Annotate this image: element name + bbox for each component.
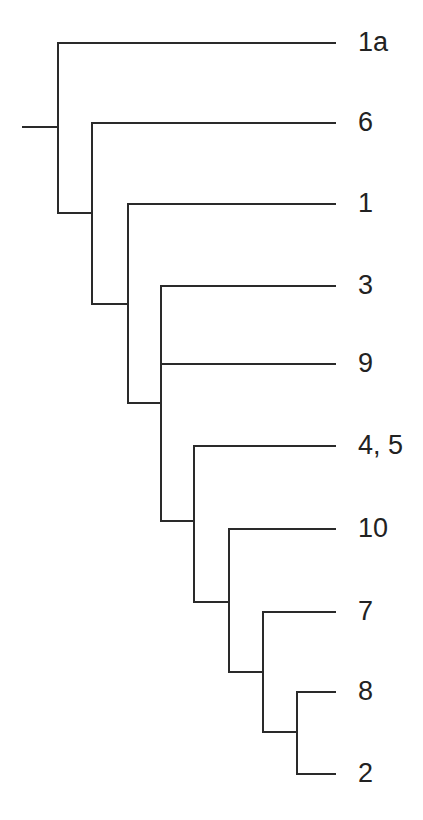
leaf-label: 1 xyxy=(358,190,373,217)
leaf-label: 9 xyxy=(358,350,373,377)
leaf-label: 1a xyxy=(358,29,388,56)
leaf-label: 2 xyxy=(358,760,373,787)
leaf-label: 3 xyxy=(358,272,373,299)
leaf-label: 4, 5 xyxy=(358,432,403,459)
leaf-label: 10 xyxy=(358,515,388,542)
leaf-label: 6 xyxy=(358,109,373,136)
leaf-label: 8 xyxy=(358,678,373,705)
leaf-label: 7 xyxy=(358,598,373,625)
